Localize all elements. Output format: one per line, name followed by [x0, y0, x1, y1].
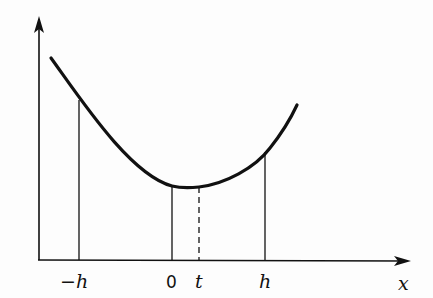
x-axis [38, 260, 404, 261]
diagram-canvas: −h 0 t h x [0, 0, 433, 298]
tick-label-t: t [195, 272, 203, 291]
tick-label-h: h [259, 272, 271, 291]
tick-label-neg-h: −h [60, 272, 88, 291]
plot-svg [0, 0, 433, 298]
x-axis-label: x [398, 274, 409, 293]
convex-curve [51, 58, 297, 188]
tick-label-zero: 0 [166, 274, 177, 291]
